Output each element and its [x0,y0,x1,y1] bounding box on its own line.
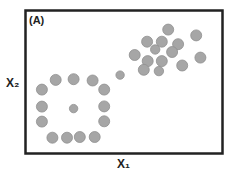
ring-cluster-point [36,116,47,127]
upper-cluster-point [191,30,202,41]
ring-cluster-point [99,101,110,112]
ring-cluster-point [89,132,100,143]
ring-cluster-point [36,84,47,95]
ring-cluster-point [62,132,73,143]
upper-cluster-point [151,45,160,54]
ring-cluster-point [99,116,110,127]
upper-cluster-point [156,56,167,67]
x-axis-label-text: X₁ [117,157,130,171]
bridge-point-point [116,71,124,79]
panel-label: (A) [29,14,44,26]
ring-cluster-point [50,74,61,85]
ring-cluster-point [74,132,85,143]
x-axis-label: X₁ [117,157,130,171]
upper-cluster-point [129,50,140,61]
ring-cluster-point [36,101,47,112]
ring-cluster-point [68,74,79,85]
y-axis-label-text: X₂ [6,76,19,90]
scatter-plot [0,0,232,179]
ring-cluster-point [47,132,58,143]
upper-cluster-point [138,64,149,75]
upper-cluster-point [195,52,206,63]
upper-cluster-point [142,36,153,47]
ring-cluster-point [87,75,98,86]
y-axis-label: X₂ [6,76,19,90]
ring-cluster-point [69,104,77,112]
upper-cluster-point [163,24,174,35]
upper-cluster-point [154,66,163,75]
upper-cluster-point [167,47,178,58]
ring-cluster-point [99,84,110,95]
upper-cluster-point [177,60,188,71]
